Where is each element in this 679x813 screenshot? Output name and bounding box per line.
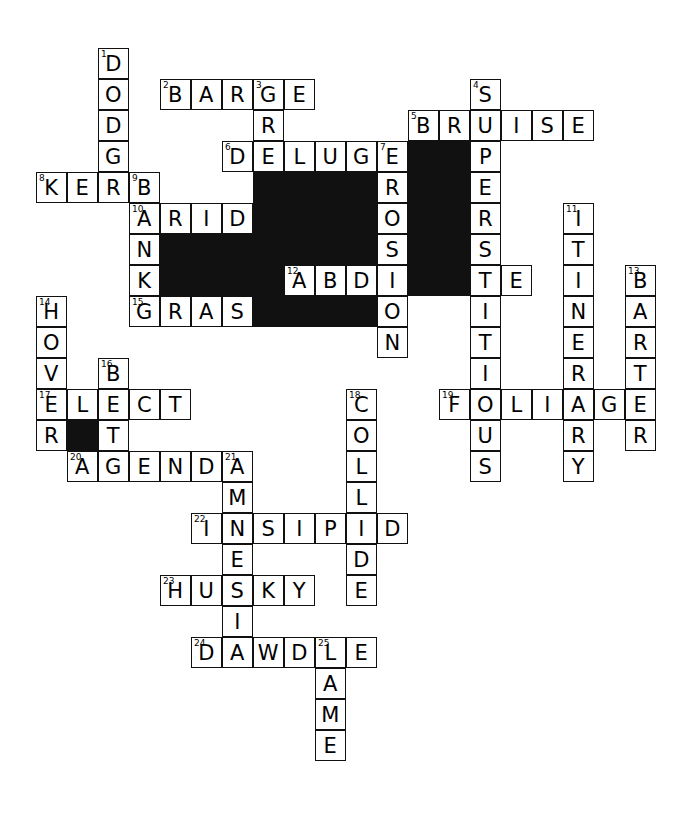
crossword-cell[interactable]: N (222, 513, 253, 544)
crossword-cell[interactable]: L (501, 389, 532, 420)
crossword-cell[interactable]: I (222, 606, 253, 637)
crossword-cell[interactable]: 24D (191, 637, 222, 668)
crossword-cell[interactable]: T (470, 327, 501, 358)
crossword-cell[interactable]: R (222, 79, 253, 110)
crossword-cell[interactable]: P (470, 141, 501, 172)
crossword-cell[interactable]: 13B (625, 265, 656, 296)
crossword-cell[interactable]: S (377, 234, 408, 265)
crossword-cell[interactable]: E (563, 110, 594, 141)
crossword-cell[interactable]: I (501, 110, 532, 141)
crossword-cell[interactable]: U (315, 141, 346, 172)
crossword-cell[interactable]: I (284, 513, 315, 544)
crossword-cell[interactable]: T (160, 389, 191, 420)
crossword-cell[interactable]: R (160, 296, 191, 327)
crossword-cell[interactable]: D (377, 513, 408, 544)
crossword-cell[interactable]: N (563, 296, 594, 327)
crossword-cell[interactable]: E (625, 389, 656, 420)
crossword-cell[interactable]: L (346, 482, 377, 513)
crossword-cell[interactable]: U (470, 420, 501, 451)
crossword-cell[interactable]: O (36, 327, 67, 358)
crossword-cell[interactable]: 10A (129, 203, 160, 234)
crossword-cell[interactable]: I (191, 203, 222, 234)
crossword-cell[interactable]: A (625, 296, 656, 327)
crossword-cell[interactable]: 19F (439, 389, 470, 420)
crossword-cell[interactable]: R (98, 172, 129, 203)
crossword-cell[interactable]: T (625, 358, 656, 389)
crossword-cell[interactable]: 18C (346, 389, 377, 420)
crossword-cell[interactable]: S (222, 575, 253, 606)
crossword-cell[interactable]: 23H (160, 575, 191, 606)
crossword-cell[interactable]: S (470, 234, 501, 265)
crossword-cell[interactable]: 15G (129, 296, 160, 327)
crossword-cell[interactable]: R (625, 420, 656, 451)
crossword-cell[interactable]: R (160, 203, 191, 234)
crossword-cell[interactable]: M (222, 482, 253, 513)
crossword-cell[interactable]: 1D (98, 48, 129, 79)
crossword-cell[interactable]: 9B (129, 172, 160, 203)
crossword-cell[interactable]: O (377, 203, 408, 234)
crossword-cell[interactable]: 20A (67, 451, 98, 482)
crossword-cell[interactable]: A (222, 637, 253, 668)
crossword-cell[interactable]: 6D (222, 141, 253, 172)
crossword-cell[interactable]: E (98, 389, 129, 420)
crossword-cell[interactable]: W (253, 637, 284, 668)
crossword-cell[interactable]: I (563, 265, 594, 296)
crossword-cell[interactable]: R (377, 172, 408, 203)
crossword-cell[interactable]: Y (563, 451, 594, 482)
crossword-cell[interactable]: E (501, 265, 532, 296)
crossword-cell[interactable]: I (532, 389, 563, 420)
crossword-cell[interactable]: R (253, 110, 284, 141)
crossword-cell[interactable]: S (532, 110, 563, 141)
crossword-cell[interactable]: E (222, 544, 253, 575)
crossword-cell[interactable]: 2B (160, 79, 191, 110)
crossword-cell[interactable]: S (470, 451, 501, 482)
crossword-cell[interactable]: T (563, 234, 594, 265)
crossword-cell[interactable]: D (98, 110, 129, 141)
crossword-cell[interactable]: C (129, 389, 160, 420)
crossword-cell[interactable]: 5B (408, 110, 439, 141)
crossword-cell[interactable]: E (129, 451, 160, 482)
crossword-grid[interactable]: 1DODGR2BAR3GEREEDY4SUPERSTITIOUS5BRISE6D… (0, 0, 679, 813)
crossword-cell[interactable]: 4S (470, 79, 501, 110)
crossword-cell[interactable]: R (563, 358, 594, 389)
crossword-cell[interactable]: R (470, 203, 501, 234)
crossword-cell[interactable]: N (160, 451, 191, 482)
crossword-cell[interactable]: S (222, 296, 253, 327)
crossword-cell[interactable]: P (315, 513, 346, 544)
crossword-cell[interactable]: E (346, 575, 377, 606)
crossword-cell[interactable]: G (98, 451, 129, 482)
crossword-cell[interactable]: A (315, 668, 346, 699)
crossword-cell[interactable]: G (346, 141, 377, 172)
crossword-cell[interactable]: B (315, 265, 346, 296)
crossword-cell[interactable]: 14H (36, 296, 67, 327)
crossword-cell[interactable]: N (377, 327, 408, 358)
crossword-cell[interactable]: 21A (222, 451, 253, 482)
crossword-cell[interactable]: T (98, 420, 129, 451)
crossword-cell[interactable]: S (253, 513, 284, 544)
crossword-cell[interactable]: V (36, 358, 67, 389)
crossword-cell[interactable]: O (470, 389, 501, 420)
crossword-cell[interactable]: G (98, 141, 129, 172)
crossword-cell[interactable]: L (346, 451, 377, 482)
crossword-cell[interactable]: A (191, 296, 222, 327)
crossword-cell[interactable]: E (315, 730, 346, 761)
crossword-cell[interactable]: E (67, 172, 98, 203)
crossword-cell[interactable]: R (625, 327, 656, 358)
crossword-cell[interactable]: 12A (284, 265, 315, 296)
crossword-cell[interactable]: 22I (191, 513, 222, 544)
crossword-cell[interactable]: D (191, 451, 222, 482)
crossword-cell[interactable]: K (253, 575, 284, 606)
crossword-cell[interactable]: D (346, 544, 377, 575)
crossword-cell[interactable]: E (253, 141, 284, 172)
crossword-cell[interactable]: A (191, 79, 222, 110)
crossword-cell[interactable]: L (284, 141, 315, 172)
crossword-cell[interactable]: R (36, 420, 67, 451)
crossword-cell[interactable]: 17E (36, 389, 67, 420)
crossword-cell[interactable]: 7E (377, 141, 408, 172)
crossword-cell[interactable]: M (315, 699, 346, 730)
crossword-cell[interactable]: T (470, 265, 501, 296)
crossword-cell[interactable]: E (346, 637, 377, 668)
crossword-cell[interactable]: I (346, 513, 377, 544)
crossword-cell[interactable]: E (563, 327, 594, 358)
crossword-cell[interactable]: D (346, 265, 377, 296)
